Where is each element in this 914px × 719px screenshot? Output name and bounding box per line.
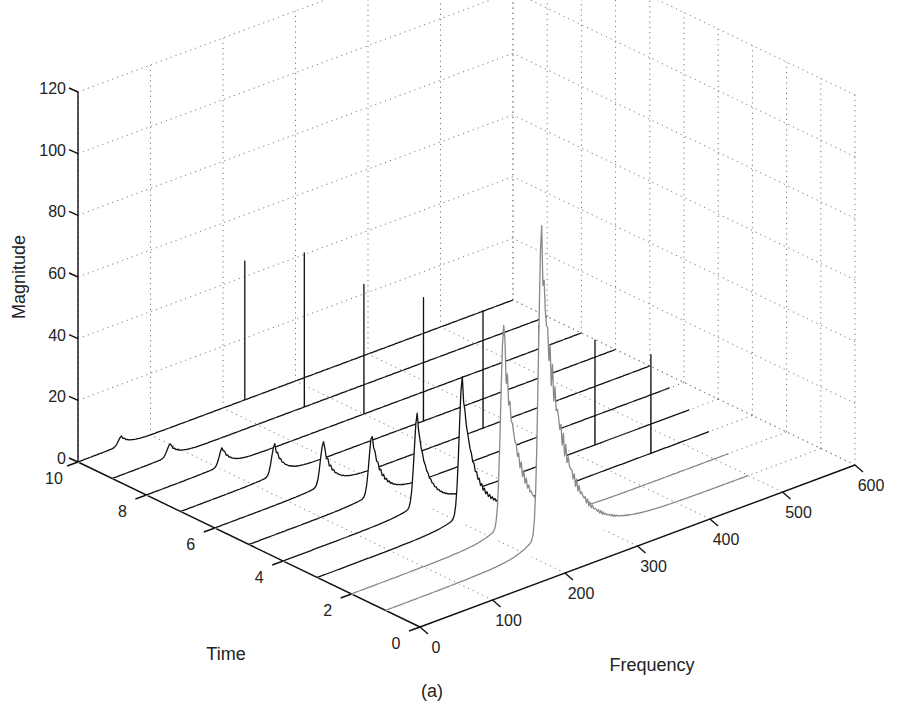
magnitude-tick-label: 20	[48, 388, 66, 405]
frequency-tick-label: 400	[713, 531, 740, 548]
magnitude-tick-label: 0	[57, 450, 66, 467]
spectrum-trace	[112, 253, 547, 479]
frequency-tick-label: 600	[858, 477, 885, 494]
frequency-tick-label: 0	[432, 639, 441, 656]
waterfall-chart: 0100200300400500600024681002040608010012…	[0, 0, 914, 719]
spectrum-trace	[78, 261, 513, 462]
magnitude-tick-label: 80	[48, 203, 66, 220]
magnitude-tick-label: 60	[48, 265, 66, 282]
time-axis-label: Time	[206, 644, 245, 664]
time-tick-label: 0	[392, 635, 401, 652]
time-tick-label: 2	[323, 602, 332, 619]
magnitude-tick-label: 120	[39, 80, 66, 97]
magnitude-tick-label: 100	[39, 142, 66, 159]
time-tick-label: 4	[255, 569, 264, 586]
frequency-tick-label: 500	[785, 504, 812, 521]
spectrum-traces	[78, 226, 748, 612]
frequency-axis-label: Frequency	[609, 655, 694, 675]
frequency-tick-label: 100	[495, 612, 522, 629]
time-tick-label: 6	[186, 536, 195, 553]
time-tick-label: 10	[45, 470, 63, 487]
frequency-tick-label: 200	[568, 585, 595, 602]
magnitude-tick-label: 40	[48, 327, 66, 344]
spectrum-trace	[386, 226, 749, 611]
time-tick-label: 8	[118, 503, 127, 520]
magnitude-axis-label: Magnitude	[9, 235, 29, 319]
frequency-tick-label: 300	[640, 558, 667, 575]
figure-caption: (a)	[421, 681, 443, 701]
